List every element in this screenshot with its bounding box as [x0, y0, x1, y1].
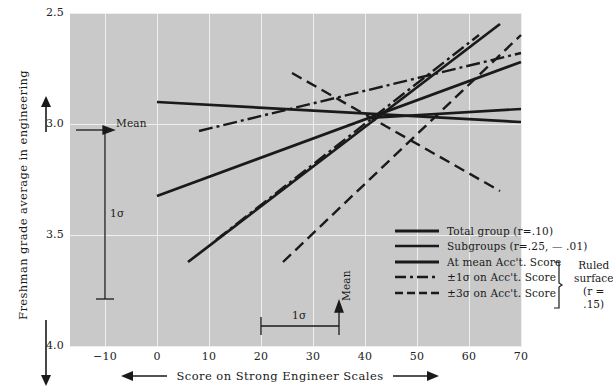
legend-key-solid-icon	[395, 241, 439, 251]
x-axis-right-arrow-icon	[393, 370, 439, 382]
xtick-label-40: 40	[345, 350, 385, 363]
legend-label-at-mean-acct: At mean Acc't. Score	[447, 256, 561, 268]
plot-area: Mean 1σ 1σ Mean Total group (r=.10)	[70, 13, 522, 347]
xtick-label-60: 60	[449, 350, 489, 363]
x-mean-label: Mean	[340, 270, 352, 301]
legend-group-brace: Ruled surface (r = .15)	[553, 261, 611, 309]
legend-label-3sigma: ±3σ on Acc't. Score	[447, 287, 556, 299]
legend-label-1sigma: ±1σ on Acc't. Score	[447, 271, 556, 283]
legend-item-subgroups: Subgroups (r=.25, — .01)	[395, 239, 605, 255]
ytick-label-3.5: 3.5	[30, 228, 64, 241]
x-axis-left-arrow-icon	[121, 370, 167, 382]
x-axis-title-group: Score on Strong Engineer Scales	[120, 366, 440, 386]
x-sigma-label: 1σ	[292, 309, 306, 321]
xtick-label--10: −10	[85, 350, 125, 363]
y-axis-down-arrow-icon	[40, 320, 52, 386]
xtick-label-50: 50	[397, 350, 437, 363]
x-axis-title: Score on Strong Engineer Scales	[176, 369, 383, 383]
y-mean-label: Mean	[116, 117, 147, 129]
brace-line-2: surface	[574, 272, 613, 284]
y-axis-up-arrow-icon	[40, 96, 52, 132]
legend-key-dashdot-icon	[395, 272, 439, 282]
legend-brace-text: Ruled surface (r = .15)	[574, 259, 613, 311]
xtick-label-0: 0	[137, 350, 177, 363]
brace-line-3: (r = .15)	[583, 285, 604, 310]
legend: Total group (r=.10) Subgroups (r=.25, — …	[395, 223, 605, 301]
legend-label-total-group: Total group (r=.10)	[447, 225, 553, 237]
xtick-label-30: 30	[293, 350, 333, 363]
y-sigma-label: 1σ	[110, 207, 124, 219]
xtick-label-20: 20	[241, 350, 281, 363]
y-axis-title-group: Freshman grade average in engineering	[14, 60, 34, 330]
y-axis-title: Freshman grade average in engineering	[16, 70, 30, 320]
legend-key-dashed-icon	[395, 288, 439, 298]
brace-line-1: Ruled	[578, 259, 609, 271]
legend-item-total-group: Total group (r=.10)	[395, 223, 605, 239]
legend-label-subgroups: Subgroups (r=.25, — .01)	[447, 240, 587, 252]
xtick-label-10: 10	[189, 350, 229, 363]
ytick-label-2.5: 2.5	[30, 6, 64, 19]
brace-icon	[553, 261, 563, 309]
legend-key-solid-icon	[395, 257, 439, 267]
legend-key-solid-icon	[395, 226, 439, 236]
xtick-label-70: 70	[501, 350, 541, 363]
